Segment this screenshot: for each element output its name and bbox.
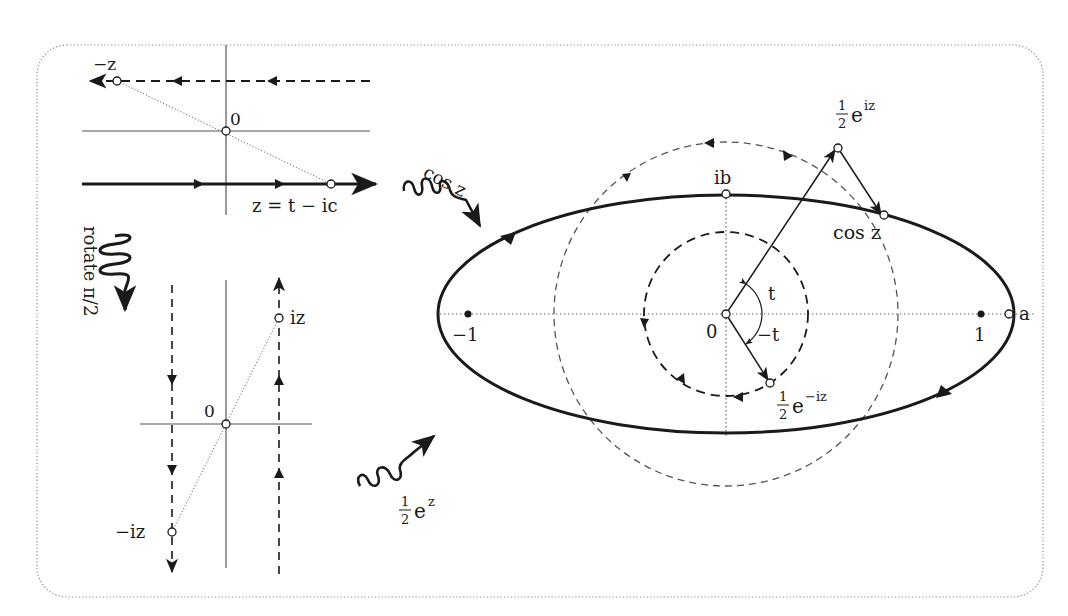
direction-arrow-icon (783, 150, 793, 161)
point-cos-z (880, 211, 888, 219)
label-neg-z: −z (93, 54, 116, 74)
point-neg-iz (168, 528, 176, 536)
label-t: t (768, 283, 776, 304)
direction-arrow-icon (733, 392, 743, 402)
direction-arrow-icon (194, 179, 204, 189)
direction-arrow-icon (676, 373, 685, 384)
frac-num: 1 (779, 389, 787, 404)
direction-arrow-icon (936, 385, 952, 398)
top-left-panel: −z 0 z = t − ic (82, 45, 376, 216)
label-neg-iz: −iz (115, 521, 145, 542)
point-half-e-neg-iz (766, 379, 774, 387)
angle-arc-t (746, 284, 762, 314)
label-origin: 0 (204, 401, 215, 421)
label-origin: 0 (230, 109, 241, 129)
point-origin (222, 420, 230, 428)
point-ib (722, 190, 730, 198)
direction-arrow-icon (274, 468, 284, 478)
label-neg-one: −1 (452, 324, 479, 345)
direction-arrow-icon (172, 76, 182, 86)
point-origin (222, 127, 230, 135)
half-exp-den: 2 (401, 512, 409, 527)
cos-map-arrow: cos z (404, 161, 480, 226)
figure-border (37, 45, 1043, 597)
joukowski-cosine-diagram: −z 0 z = t − ic rotate π/2 iz 0 −iz cos … (0, 0, 1068, 616)
squiggle-arrow-icon (100, 235, 130, 310)
exp-base: e (851, 103, 863, 127)
label-one: 1 (974, 324, 985, 345)
direction-arrow-icon (275, 179, 285, 189)
label-a: a (1019, 303, 1030, 324)
vector-half-eiz (726, 150, 835, 314)
label-rotate: rotate π/2 (80, 226, 101, 316)
direction-arrow-icon (267, 76, 277, 86)
point-origin (722, 310, 730, 318)
frac-num: 1 (838, 98, 846, 113)
point-z (327, 180, 335, 188)
direction-arrow-icon (167, 465, 177, 475)
exp-base: e (792, 394, 804, 418)
direction-arrow-icon (640, 318, 649, 328)
main-panel: ib 0 −1 1 a t −t cos z 1 2 e iz 1 2 e −i… (438, 98, 1036, 486)
direction-arrow-icon (622, 173, 631, 182)
label-neg-t: −t (757, 324, 780, 345)
label-cos-z: cos z (833, 221, 881, 243)
label-iz: iz (290, 307, 305, 328)
label-ib: ib (714, 167, 731, 188)
half-exp-num: 1 (401, 494, 409, 509)
rotate-arrow: rotate π/2 (80, 226, 130, 316)
point-a (1005, 310, 1013, 318)
label-cos-map: cos z (420, 161, 470, 201)
label-path: z = t − ic (252, 195, 338, 216)
frac-den: 2 (779, 407, 787, 422)
point-neg-z (113, 77, 121, 85)
label-half-e-neg-iz: 1 2 e −iz (777, 389, 827, 422)
direction-arrow-icon (274, 375, 284, 385)
half-exp-sup: z (428, 494, 435, 509)
label-half-eiz: 1 2 e iz (836, 98, 875, 131)
frac-den: 2 (838, 116, 846, 131)
bottom-left-panel: iz 0 −iz (115, 278, 312, 574)
half-exp-map-arrow: 1 2 e z (358, 436, 435, 527)
diagram-canvas: −z 0 z = t − ic rotate π/2 iz 0 −iz cos … (0, 0, 1068, 616)
direction-arrow-icon (167, 375, 177, 385)
focus-neg-one (465, 311, 472, 318)
focus-one (978, 311, 985, 318)
squiggle-arrow-icon (358, 436, 434, 486)
label-origin: 0 (706, 321, 717, 342)
exp-sup: −iz (805, 389, 827, 404)
half-exp-base: e (414, 499, 426, 523)
point-iz (275, 314, 283, 322)
point-half-eiz (834, 144, 842, 152)
exp-sup: iz (864, 98, 875, 113)
direction-arrow-icon (704, 138, 714, 148)
